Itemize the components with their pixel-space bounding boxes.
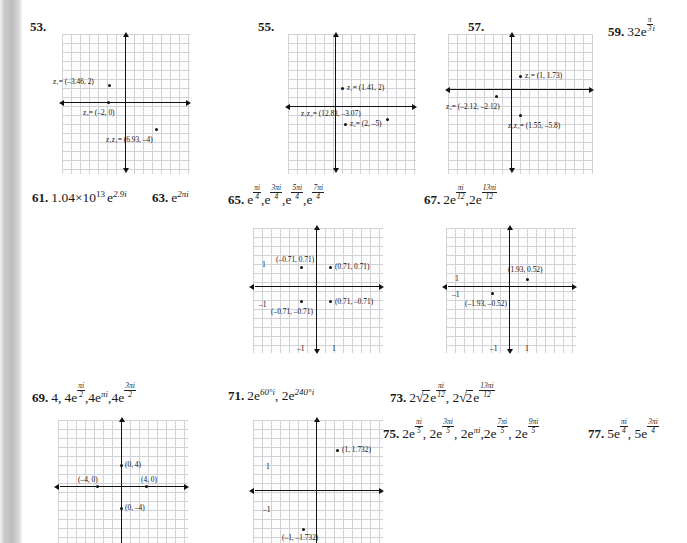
x-axis-right-arrow [572, 284, 577, 290]
y-axis [316, 230, 317, 351]
problem-61-exponent: 2.9i [113, 190, 127, 199]
problem-number: 71. [228, 388, 244, 403]
x-axis-right-arrow [184, 484, 189, 490]
graph-69: (0, 4) (–4, 0) (4, 0) (0, –4) [58, 420, 188, 543]
x-axis-left-arrow [249, 488, 254, 494]
term-exponent: 60°i [260, 388, 275, 397]
term-exponent: πi12 [436, 382, 446, 399]
x-axis [255, 286, 381, 287]
graph-grid [446, 228, 576, 353]
term-exponent: 3πi5 [442, 418, 454, 435]
answer-key-page: 53. z₁= (–3.46, 2) z₂= (–2, 0) z₁z₂= (6.… [0, 0, 687, 543]
problem-55-label: 55. [258, 20, 277, 34]
y-axis-down-arrow [333, 168, 339, 173]
graph-65: (–0.71, 0.71) (0.71, 0.71) (–0.71, –0.71… [253, 228, 383, 353]
point-label: (–1.93, –0.52) [465, 300, 507, 307]
point-label-z2: z₂= (2, –5) [350, 120, 382, 127]
graph-grid [253, 228, 383, 353]
data-point [107, 101, 110, 104]
term-coefficient: 2 [409, 390, 416, 405]
x-tick-negative: –1 [490, 345, 498, 353]
point-label: (1.93, 0.52) [508, 266, 543, 273]
term-base: 2e [461, 426, 474, 441]
problem-number: 77. [588, 426, 604, 441]
x-axis-left-arrow [59, 100, 64, 106]
problem-57-label: 57. [468, 20, 487, 34]
x-tick-negative: –1 [297, 345, 305, 353]
y-tick-positive: 1 [262, 261, 266, 269]
x-axis-left-arrow [249, 284, 254, 290]
x-axis-right-arrow [186, 100, 191, 106]
problem-63-exponent: 2πi [177, 190, 189, 199]
problem-number: 57. [468, 19, 484, 34]
point-label: (0.71, 0.71) [335, 263, 370, 270]
scan-gutter-shadow [0, 0, 22, 543]
x-axis [60, 486, 186, 487]
problem-number: 59. [608, 24, 624, 39]
term-base: 2e [515, 426, 528, 441]
term-exponent: 3πi4 [647, 418, 659, 435]
y-axis-down-arrow [314, 349, 320, 354]
term-exponent: 3πi4 [270, 184, 282, 201]
problem-61-power: 13 [96, 190, 105, 199]
y-axis-up-arrow [119, 417, 125, 422]
x-tick-positive: 1 [332, 345, 336, 353]
y-axis-down-arrow [507, 349, 513, 354]
problem-number: 61. [32, 190, 48, 205]
term-base: 2e [484, 426, 497, 441]
y-axis [335, 37, 336, 171]
problem-number: 53. [30, 19, 46, 34]
graph-53: z₁= (–3.46, 2) z₂= (–2, 0) z₁z₂= (6.93, … [62, 34, 190, 174]
x-axis [290, 106, 414, 107]
term-base: 2e [443, 192, 456, 207]
term-base: 2e [430, 426, 443, 441]
graph-grid [288, 34, 416, 174]
point-label-z1z2: z₁z₂= (12.83, –3.07) [301, 110, 361, 117]
x-axis [255, 490, 381, 491]
x-axis-left-arrow [442, 284, 447, 290]
term-exponent: 3πi2 [124, 382, 136, 399]
point-label: (–0.71, 0.71) [276, 256, 314, 263]
point-label-z1: z₁= (1.41, 2) [347, 84, 384, 91]
x-axis-right-arrow [379, 488, 384, 494]
problem-number: 73. [390, 390, 406, 405]
term-base: 2e [469, 192, 482, 207]
y-axis [125, 37, 126, 171]
x-axis-right-arrow [412, 104, 417, 110]
problem-number: 55. [258, 19, 274, 34]
term-base: 2e [282, 388, 295, 403]
y-axis [121, 422, 122, 543]
term-base: 5e [607, 426, 620, 441]
x-axis-left-arrow [445, 87, 450, 93]
point-label: (0, 4) [125, 461, 141, 468]
data-point [96, 485, 99, 488]
point-label-z2: z₂= (–2, 0) [83, 109, 115, 116]
problem-69-label: 69.4,4eπi2,4eπi,4e3πi2 [32, 388, 136, 406]
term-base: 4e [111, 390, 124, 405]
problem-65-label: 65.eπi4,e3πi4,e5πi4,e7πi4 [228, 190, 324, 208]
term-base: 2e [247, 388, 260, 403]
problem-59-label: 59.32eπ3i [608, 22, 655, 40]
y-axis-down-arrow [123, 168, 129, 173]
point-label: (0.71, –0.71) [335, 298, 373, 305]
problem-71-label: 71.2e60°i, 2e240°i [228, 388, 314, 404]
graph-grid [253, 420, 383, 543]
x-axis-right-arrow [379, 284, 384, 290]
problem-73-label: 73.2√2eπi12, 2√2e13πi12 [390, 388, 495, 406]
y-tick-positive: 1 [266, 463, 270, 471]
point-label: (–1, –1.732) [282, 534, 318, 541]
graph-67: (1.93, 0.52) (–1.93, –0.52) 1 –1 –1 1 [446, 228, 576, 353]
data-point [145, 485, 148, 488]
problem-number: 63. [152, 190, 168, 205]
term-exponent: 7πi4 [312, 184, 324, 201]
term-exponent: πi12 [456, 184, 466, 201]
term-exponent: πi4 [253, 184, 261, 201]
term-exponent: 13πi12 [482, 184, 497, 201]
x-axis [450, 89, 591, 90]
problem-59-base: 32e [627, 24, 647, 39]
problem-75-label: 75.2eπi5, 2e3πi5, 2eπi,2e7πi5, 2e9πi5 [383, 424, 539, 442]
term-exponent: 240°i [295, 388, 315, 397]
x-axis [448, 286, 574, 287]
problem-number: 65. [228, 192, 244, 207]
point-label-z1z2: z₁z₂= (1.55, –5.8) [508, 122, 560, 129]
